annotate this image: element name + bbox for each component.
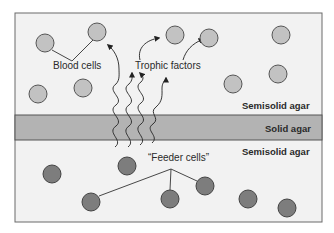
diagram-canvas — [0, 0, 334, 233]
blood-cell — [36, 34, 54, 52]
blood-cell — [200, 29, 218, 47]
feeder-cell — [118, 157, 136, 175]
blood-cells-label: Blood cells — [53, 60, 101, 71]
feeder-cell — [196, 177, 214, 195]
feeder-cell — [239, 190, 257, 208]
blood-cell — [224, 75, 242, 93]
semisolid-agar-bottom-label: Semisolid agar — [242, 146, 310, 157]
blood-cell — [74, 79, 92, 97]
blood-cell — [269, 65, 287, 83]
blood-cell — [272, 26, 290, 44]
semisolid-agar-top-label: Semisolid agar — [242, 100, 310, 111]
culture-dish-diagram: Blood cells Trophic factors “Feeder cell… — [0, 0, 334, 233]
blood-cell — [88, 23, 106, 41]
feeder-cell — [161, 190, 179, 208]
blood-cell — [29, 85, 47, 103]
feeder-cell — [43, 165, 61, 183]
feeder-cell — [278, 199, 296, 217]
feeder-cell — [82, 193, 100, 211]
feeder-cells-label: “Feeder cells” — [148, 152, 209, 163]
trophic-factors-label: Trophic factors — [135, 60, 201, 71]
solid-agar-label: Solid agar — [265, 123, 311, 134]
blood-cell — [166, 26, 184, 44]
